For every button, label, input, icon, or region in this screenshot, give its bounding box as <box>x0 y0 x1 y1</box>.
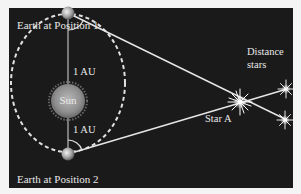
distant-stars-label-line1: Distance <box>247 46 284 57</box>
sun-label: Sun <box>59 94 77 106</box>
distant-stars-label-line2: stars <box>247 59 266 70</box>
parallax-diagram: Sun Earth at Position 1 1 AU 1 AU Earth … <box>0 0 301 194</box>
au-label-bottom: 1 AU <box>73 124 96 135</box>
au-label-top: 1 AU <box>73 66 96 77</box>
earth-position-2-label: Earth at Position 2 <box>17 173 99 185</box>
earth-position-1-label: Earth at Position 1 <box>17 19 99 31</box>
star-a-label: Star A <box>205 113 232 124</box>
earth-position-2 <box>62 148 75 161</box>
earth-position-1 <box>62 7 75 20</box>
